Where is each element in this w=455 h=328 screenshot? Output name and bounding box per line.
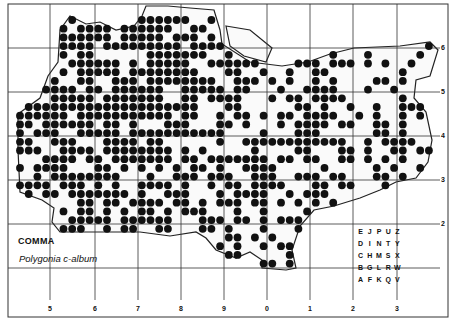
key-letter: Z [393,226,402,238]
species-scientific-name: Polygonia c-album [19,253,97,264]
x-tick: 3 [395,305,399,312]
x-tick: 0 [265,305,269,312]
x-tick: 2 [351,305,355,312]
key-letter: G [365,262,374,274]
key-letter: Q [384,274,393,286]
key-letter: W [393,262,402,274]
x-tick: 1 [308,305,312,312]
key-letter: F [365,274,374,286]
key-letter: K [374,274,383,286]
x-tick: 5 [48,305,52,312]
key-letter: D [356,238,365,250]
key-letter: J [365,226,374,238]
x-tick: 9 [222,305,226,312]
x-tick: 8 [179,305,183,312]
species-common-name: COMMA [18,236,55,246]
key-letter: X [393,250,402,262]
x-tick: 7 [136,305,140,312]
key-letter: E [356,226,365,238]
key-letter: B [356,262,365,274]
key-letter: M [374,250,383,262]
y-tick: 5 [441,88,445,95]
x-tick: 6 [93,305,97,312]
key-letter: U [384,226,393,238]
y-tick: 2 [441,220,445,227]
key-letter: T [384,238,393,250]
key-letter: N [374,238,383,250]
key-letter: V [393,274,402,286]
key-letter: H [365,250,374,262]
key-letter: S [384,250,393,262]
y-tick: 4 [441,132,445,139]
key-letter: Y [393,238,402,250]
key-letter: I [365,238,374,250]
key-letter: A [356,274,365,286]
key-letter: P [374,226,383,238]
key-letter: C [356,250,365,262]
tetrad-key: EJPUZ DINTY CHMSX BGLRW AFKQV [356,226,402,286]
key-letter: L [374,262,383,274]
y-tick: 6 [441,44,445,51]
y-tick: 3 [441,176,445,183]
key-letter: R [384,262,393,274]
